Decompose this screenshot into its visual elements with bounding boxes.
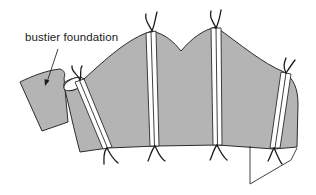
bustier-illustration [0,0,316,195]
bustier-foundation-label: bustier foundation [25,31,118,43]
hem-extension-edge [291,148,297,160]
bustier-diagram: bustier foundation [0,0,316,195]
hem-extension [250,146,291,184]
foundation-flap [20,69,68,131]
